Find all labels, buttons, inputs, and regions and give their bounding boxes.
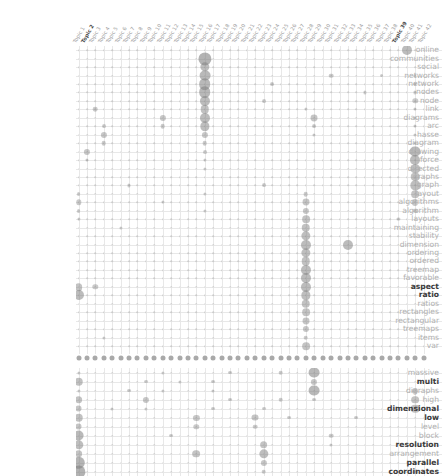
- upper-row-label-maintaining[interactable]: maintaining: [366, 224, 442, 232]
- upper-bubble[interactable]: [77, 218, 80, 221]
- upper-row-label-algorithm[interactable]: algorithm: [366, 207, 442, 215]
- lower-row-label-high[interactable]: high: [366, 396, 442, 404]
- upper-bubble[interactable]: [203, 150, 207, 154]
- upper-bubble[interactable]: [127, 184, 130, 187]
- lower-bubble[interactable]: [143, 396, 149, 402]
- lower-row-label-coordinates[interactable]: coordinates: [366, 468, 442, 476]
- upper-bubble[interactable]: [119, 226, 122, 229]
- upper-bubble[interactable]: [200, 122, 209, 131]
- upper-row-label-aspect[interactable]: aspect: [366, 283, 442, 291]
- upper-row-label-diagram[interactable]: diagram: [366, 139, 442, 147]
- upper-bubble[interactable]: [313, 133, 316, 136]
- upper-bubble[interactable]: [76, 200, 81, 205]
- upper-row-label-stability[interactable]: stability: [366, 232, 442, 240]
- upper-row-label-social[interactable]: social: [366, 63, 442, 71]
- lower-bubble[interactable]: [76, 440, 83, 449]
- lower-bubble[interactable]: [127, 389, 131, 393]
- lower-row-label-resolution[interactable]: resolution: [366, 441, 442, 449]
- lower-bubble[interactable]: [144, 380, 148, 384]
- upper-row-label-hasse[interactable]: hasse: [366, 131, 442, 139]
- lower-row-label-massive[interactable]: massive: [366, 369, 442, 377]
- lower-bubble[interactable]: [354, 416, 358, 420]
- upper-bubble[interactable]: [302, 199, 309, 206]
- upper-row-label-treemaps[interactable]: treemaps: [366, 325, 442, 333]
- upper-row-label-treemap[interactable]: treemap: [366, 266, 442, 274]
- lower-bubble[interactable]: [193, 450, 201, 458]
- upper-row-label-force[interactable]: force: [366, 156, 442, 164]
- upper-bubble[interactable]: [302, 317, 309, 324]
- upper-row-label-nodes[interactable]: nodes: [366, 88, 442, 96]
- upper-row-label-favorable[interactable]: favorable: [366, 274, 442, 282]
- upper-bubble[interactable]: [102, 124, 106, 128]
- upper-bubble[interactable]: [203, 167, 206, 170]
- upper-row-label-var[interactable]: var: [366, 342, 442, 350]
- upper-bubble[interactable]: [203, 159, 206, 162]
- upper-bubble[interactable]: [84, 149, 90, 155]
- upper-row-label-algorithms[interactable]: algorithms: [366, 198, 442, 206]
- lower-bubble[interactable]: [312, 398, 316, 402]
- lower-bubble[interactable]: [193, 414, 199, 420]
- upper-row-label-communities[interactable]: communities: [366, 55, 442, 63]
- upper-row-label-network[interactable]: network: [366, 80, 442, 88]
- lower-bubble[interactable]: [144, 407, 147, 410]
- lower-bubble[interactable]: [228, 398, 232, 402]
- lower-bubble[interactable]: [211, 380, 215, 384]
- lower-bubble[interactable]: [178, 380, 181, 383]
- lower-bubble[interactable]: [76, 413, 83, 422]
- lower-bubble[interactable]: [262, 407, 266, 411]
- upper-row-label-ratios[interactable]: ratios: [366, 300, 442, 308]
- lower-bubble[interactable]: [76, 405, 82, 412]
- lower-bubble[interactable]: [309, 368, 320, 378]
- upper-row-label-online[interactable]: online: [366, 46, 442, 54]
- lower-bubble[interactable]: [228, 371, 232, 375]
- upper-bubble[interactable]: [304, 108, 307, 111]
- lower-bubble[interactable]: [311, 378, 317, 384]
- upper-bubble[interactable]: [270, 82, 274, 86]
- upper-bubble[interactable]: [311, 114, 318, 121]
- upper-row-label-layouts[interactable]: layouts: [366, 215, 442, 223]
- upper-bubble[interactable]: [203, 209, 206, 212]
- upper-row-label-dimension[interactable]: dimension: [366, 241, 442, 249]
- lower-bubble[interactable]: [278, 370, 283, 375]
- upper-bubble[interactable]: [302, 299, 311, 308]
- lower-row-label-arrangement[interactable]: arrangement: [366, 450, 442, 458]
- upper-bubble[interactable]: [101, 132, 107, 138]
- upper-bubble[interactable]: [302, 308, 310, 316]
- lower-bubble[interactable]: [76, 465, 85, 476]
- upper-row-label-link[interactable]: link: [366, 105, 442, 113]
- lower-bubble[interactable]: [261, 459, 267, 465]
- lower-bubble[interactable]: [194, 424, 199, 429]
- upper-row-label-rectangles[interactable]: rectangles: [366, 308, 442, 316]
- lower-bubble[interactable]: [161, 371, 164, 374]
- upper-bubble[interactable]: [161, 201, 164, 204]
- upper-row-label-node[interactable]: node: [366, 97, 442, 105]
- lower-bubble[interactable]: [260, 441, 268, 449]
- upper-bubble[interactable]: [77, 192, 81, 196]
- upper-bubble[interactable]: [77, 209, 81, 213]
- lower-bubble[interactable]: [309, 385, 320, 396]
- upper-bubble[interactable]: [160, 115, 166, 121]
- lower-bubble[interactable]: [77, 389, 80, 392]
- lower-bubble[interactable]: [253, 424, 258, 429]
- lower-bubble[interactable]: [330, 443, 333, 446]
- upper-row-label-networks[interactable]: networks: [366, 72, 442, 80]
- lower-bubble[interactable]: [287, 416, 291, 420]
- upper-bubble[interactable]: [203, 192, 206, 195]
- upper-bubble[interactable]: [303, 326, 309, 332]
- upper-bubble[interactable]: [343, 240, 353, 250]
- lower-bubble[interactable]: [77, 371, 80, 374]
- lower-row-label-parallel[interactable]: parallel: [366, 459, 442, 467]
- upper-row-label-items[interactable]: items: [366, 334, 442, 342]
- upper-bubble[interactable]: [101, 141, 106, 146]
- lower-bubble[interactable]: [211, 407, 215, 411]
- upper-bubble[interactable]: [262, 183, 266, 187]
- lower-bubble[interactable]: [278, 397, 283, 402]
- lower-bubble[interactable]: [111, 407, 114, 410]
- lower-bubble[interactable]: [329, 433, 334, 438]
- lower-bubble[interactable]: [252, 414, 259, 421]
- lower-bubble[interactable]: [261, 469, 266, 474]
- upper-bubble[interactable]: [93, 284, 98, 289]
- upper-row-label-diagrams[interactable]: diagrams: [366, 114, 442, 122]
- upper-row-label-ratio[interactable]: ratio: [366, 291, 442, 299]
- lower-row-label-digraphs[interactable]: digraphs: [366, 387, 442, 395]
